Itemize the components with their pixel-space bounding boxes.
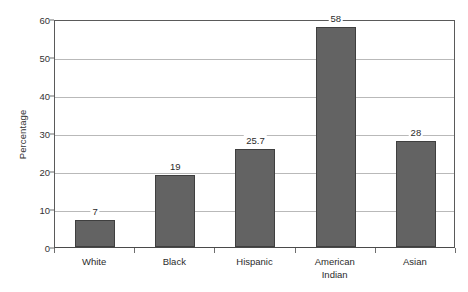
x-axis-tick-mark <box>214 248 215 253</box>
bar[interactable] <box>235 149 275 247</box>
bar-value-label: 25.7 <box>244 135 267 146</box>
bar-chart: Percentage 0102030405060 71925.75828 Whi… <box>0 0 468 292</box>
bar[interactable] <box>75 220 115 247</box>
bar[interactable] <box>396 141 436 247</box>
y-axis-tick-label: 50 <box>39 53 50 64</box>
bar-group: 58 <box>296 21 376 247</box>
y-axis-tick-label: 10 <box>39 205 50 216</box>
x-axis-tick-label: White <box>54 256 134 269</box>
x-axis-tick-mark <box>375 248 376 253</box>
bar-group: 28 <box>376 21 456 247</box>
y-axis-tick-label: 40 <box>39 91 50 102</box>
y-axis-tick-label: 60 <box>39 15 50 26</box>
bar-group: 19 <box>135 21 215 247</box>
x-axis-tick-mark <box>295 248 296 253</box>
bars-layer: 71925.75828 <box>55 21 454 247</box>
y-axis-tick-labels: 0102030405060 <box>28 20 50 248</box>
bar-group: 25.7 <box>215 21 295 247</box>
bar[interactable] <box>316 27 356 247</box>
x-axis-tick-label: American Indian <box>295 256 375 281</box>
y-axis-tick-mark <box>50 58 54 59</box>
bar-value-label: 19 <box>168 161 183 172</box>
x-axis-tick-mark <box>54 248 55 253</box>
bar[interactable] <box>155 175 195 247</box>
y-axis-tick-mark <box>50 20 54 21</box>
plot-area: 71925.75828 <box>54 20 455 248</box>
y-axis-tick-mark <box>50 134 54 135</box>
y-axis-tick-mark <box>50 248 54 249</box>
bar-value-label: 28 <box>409 127 424 138</box>
x-axis-tick-mark <box>134 248 135 253</box>
y-axis-title-label: Percentage <box>18 109 29 159</box>
x-axis-tick-label: Asian <box>375 256 455 269</box>
x-axis-tick-label: Black <box>134 256 214 269</box>
y-axis-tick-label: 20 <box>39 167 50 178</box>
bar-value-label: 58 <box>328 13 343 24</box>
y-axis-tick-label: 30 <box>39 129 50 140</box>
x-axis-tick-label: Hispanic <box>214 256 294 269</box>
bar-value-label: 7 <box>90 206 99 217</box>
y-axis-tick-mark <box>50 96 54 97</box>
x-axis-tick-mark <box>455 248 456 253</box>
y-axis-tick-mark <box>50 210 54 211</box>
bar-group: 7 <box>55 21 135 247</box>
y-axis-tick-mark <box>50 172 54 173</box>
